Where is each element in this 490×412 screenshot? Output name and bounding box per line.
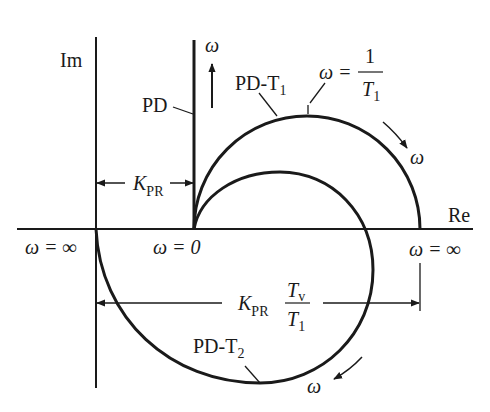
pd-leader-line bbox=[173, 107, 193, 114]
omega-bottom-arrow-icon bbox=[334, 357, 362, 379]
real-axis-label: Re bbox=[448, 204, 470, 226]
pd-t1-leader-line bbox=[259, 93, 277, 116]
omega-inf-left-label: ω = ∞ bbox=[25, 236, 77, 258]
omega-up-label: ω bbox=[205, 34, 219, 56]
omega-peak-numerator: 1 bbox=[365, 45, 375, 67]
pd-t2-leader-line bbox=[245, 366, 260, 383]
omega-outer-label: ω bbox=[410, 146, 424, 168]
omega-peak-denominator: T1 bbox=[362, 78, 380, 104]
omega-outer-arrow-icon bbox=[383, 122, 407, 148]
kpr-ratio-numerator: Tv bbox=[287, 279, 305, 304]
nyquist-diagram: Im Re PD ω PD-T1 ω = 1 T1 ω KPR PD-T2 ω … bbox=[0, 0, 490, 412]
pd-t2-label: PD-T2 bbox=[193, 335, 244, 361]
omega-peak-lhs: ω = bbox=[319, 61, 352, 83]
pd-t1-label: PD-T1 bbox=[235, 72, 286, 98]
pd-label: PD bbox=[142, 94, 168, 116]
kpr-ratio-gain: KPR bbox=[237, 292, 269, 319]
omega-zero-label: ω = 0 bbox=[153, 236, 201, 258]
omega-peak-leader-line bbox=[310, 83, 325, 103]
pd-t1-curve bbox=[194, 116, 420, 229]
omega-bottom-label: ω bbox=[307, 375, 321, 397]
kpr-ratio-denominator: T1 bbox=[287, 308, 305, 334]
kpr-label: KPR bbox=[132, 172, 164, 199]
omega-inf-right-label: ω = ∞ bbox=[409, 238, 461, 260]
imag-axis-label: Im bbox=[60, 49, 83, 71]
